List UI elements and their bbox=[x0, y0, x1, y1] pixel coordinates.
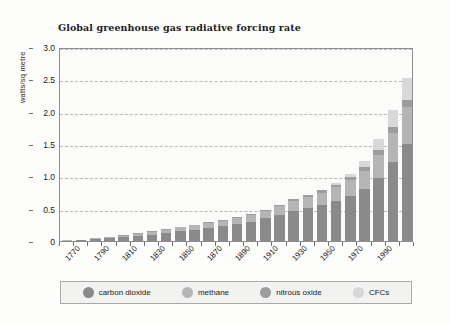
y-tick-mark bbox=[29, 48, 33, 49]
legend-label: carbon dioxide bbox=[99, 288, 151, 297]
x-tick-label: 1850 bbox=[177, 244, 196, 263]
bar-segment-methane bbox=[359, 171, 369, 190]
bar-segment-carbon-dioxide bbox=[359, 189, 369, 241]
x-axis-tick-labels: 1770179018101830185018701890191019301950… bbox=[59, 244, 413, 286]
bar-1905 bbox=[260, 210, 270, 241]
bar-segment-carbon-dioxide bbox=[90, 239, 100, 241]
x-tick-label: 1810 bbox=[120, 244, 139, 263]
legend-item-carbon-dioxide[interactable]: carbon dioxide bbox=[83, 287, 151, 298]
bar-1945 bbox=[317, 190, 327, 241]
x-tick-label: 1770 bbox=[63, 244, 82, 263]
bar-1865 bbox=[203, 222, 213, 241]
bar-segment-methane bbox=[331, 187, 341, 201]
x-tick-label: 1790 bbox=[92, 244, 111, 263]
legend-item-methane[interactable]: methane bbox=[182, 287, 229, 298]
bar-1990 bbox=[388, 110, 398, 241]
legend-swatch-icon bbox=[353, 287, 364, 298]
x-tick-label: 1990 bbox=[375, 244, 394, 263]
bar-segment-CFCs bbox=[373, 139, 383, 150]
x-tick-label: 1870 bbox=[205, 244, 224, 263]
bar-segment-carbon-dioxide bbox=[402, 144, 412, 241]
bar-1825 bbox=[147, 231, 157, 241]
bar-segment-CFCs bbox=[388, 110, 398, 127]
bar-1875 bbox=[218, 220, 228, 241]
bar-segment-carbon-dioxide bbox=[118, 237, 128, 241]
bar-segment-methane bbox=[317, 193, 327, 205]
bar-1805 bbox=[118, 235, 128, 241]
bar-segment-carbon-dioxide bbox=[246, 222, 256, 241]
bar-1995 bbox=[402, 78, 412, 241]
bar-1835 bbox=[161, 229, 171, 241]
bar-segment-carbon-dioxide bbox=[331, 201, 341, 241]
x-tick-label: 1950 bbox=[318, 244, 337, 263]
page-title: Global greenhouse gas radiative forcing … bbox=[58, 22, 301, 33]
bar-segment-carbon-dioxide bbox=[76, 240, 86, 241]
y-tick-mark bbox=[29, 145, 33, 146]
bar-1885 bbox=[232, 217, 242, 241]
plot-area bbox=[59, 48, 413, 242]
bar-segment-carbon-dioxide bbox=[189, 230, 199, 241]
bar-segment-carbon-dioxide bbox=[147, 235, 157, 241]
bar-segment-carbon-dioxide bbox=[260, 218, 270, 241]
y-tick-mark bbox=[29, 113, 33, 114]
bar-segment-methane bbox=[260, 211, 270, 218]
bar-segment-carbon-dioxide bbox=[161, 233, 171, 241]
bar-1965 bbox=[345, 174, 355, 241]
bar-segment-carbon-dioxide bbox=[288, 211, 298, 241]
bar-segment-carbon-dioxide bbox=[274, 215, 284, 242]
x-tick-label: 1930 bbox=[290, 244, 309, 263]
bar-segment-methane bbox=[345, 180, 355, 196]
bars-container bbox=[60, 49, 412, 241]
bar-segment-methane bbox=[402, 107, 412, 144]
bar-segment-carbon-dioxide bbox=[373, 178, 383, 241]
bar-1775 bbox=[76, 240, 86, 241]
bar-segment-methane bbox=[303, 197, 313, 208]
bar-1795 bbox=[104, 237, 114, 241]
bar-segment-carbon-dioxide bbox=[388, 162, 398, 241]
legend-label: methane bbox=[198, 288, 229, 297]
bar-1855 bbox=[189, 225, 199, 241]
bar-segment-methane bbox=[274, 206, 284, 214]
legend-swatch-icon bbox=[182, 287, 193, 298]
chart-legend: carbon dioxidemethanenitrous oxideCFCs bbox=[60, 281, 412, 304]
bar-1815 bbox=[133, 233, 143, 241]
bar-segment-carbon-dioxide bbox=[175, 231, 185, 241]
y-tick-mark bbox=[29, 242, 33, 243]
x-tick-mark bbox=[413, 242, 414, 246]
legend-label: CFCs bbox=[369, 288, 389, 297]
bar-segment-carbon-dioxide bbox=[303, 208, 313, 241]
bar-segment-carbon-dioxide bbox=[218, 226, 228, 241]
bar-1975 bbox=[359, 161, 369, 241]
legend-swatch-icon bbox=[83, 287, 94, 298]
bar-segment-carbon-dioxide bbox=[317, 205, 327, 241]
bar-segment-carbon-dioxide bbox=[133, 236, 143, 241]
legend-label: nitrous oxide bbox=[276, 288, 321, 297]
legend-swatch-icon bbox=[260, 287, 271, 298]
bar-segment-carbon-dioxide bbox=[232, 224, 242, 241]
bar-segment-carbon-dioxide bbox=[104, 238, 114, 241]
y-tick-mark bbox=[29, 177, 33, 178]
chart-figure: Global greenhouse gas radiative forcing … bbox=[0, 0, 451, 324]
x-tick-label: 1830 bbox=[148, 244, 167, 263]
bar-segment-methane bbox=[388, 133, 398, 162]
bar-1845 bbox=[175, 227, 185, 241]
bar-1915 bbox=[274, 205, 284, 241]
legend-item-nitrous-oxide[interactable]: nitrous oxide bbox=[260, 287, 321, 298]
bar-1765 bbox=[62, 240, 72, 241]
bar-1925 bbox=[288, 199, 298, 241]
bar-segment-carbon-dioxide bbox=[345, 196, 355, 241]
bar-1935 bbox=[303, 195, 313, 241]
x-tick-label: 1970 bbox=[347, 244, 366, 263]
y-tick-mark bbox=[29, 80, 33, 81]
bar-1955 bbox=[331, 183, 341, 241]
x-tick-label: 1890 bbox=[233, 244, 252, 263]
y-tick-mark bbox=[29, 210, 33, 211]
bar-1785 bbox=[90, 238, 100, 241]
bar-1895 bbox=[246, 214, 256, 241]
x-tick-label: 1910 bbox=[262, 244, 281, 263]
bar-1985 bbox=[373, 139, 383, 241]
bar-segment-methane bbox=[288, 201, 298, 211]
legend-item-CFCs[interactable]: CFCs bbox=[353, 287, 389, 298]
bar-segment-methane bbox=[373, 155, 383, 178]
bar-segment-carbon-dioxide bbox=[203, 228, 213, 241]
